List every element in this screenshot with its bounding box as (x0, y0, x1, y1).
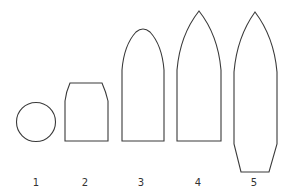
shape-4-pointed-ogive (177, 11, 221, 141)
shape-label-1: 1 (33, 177, 39, 188)
shape-label-5: 5 (251, 177, 257, 188)
shape-3-rounded-ogive (122, 29, 164, 141)
shape-5-boat-tail (234, 12, 277, 172)
shape-label-2: 2 (82, 177, 88, 188)
shape-2-blunt (65, 83, 108, 141)
shape-label-3: 3 (138, 177, 144, 188)
shape-label-4: 4 (195, 177, 201, 188)
shapes-diagram: 1 2 3 4 5 (0, 0, 284, 194)
shape-1-circle (17, 103, 56, 142)
